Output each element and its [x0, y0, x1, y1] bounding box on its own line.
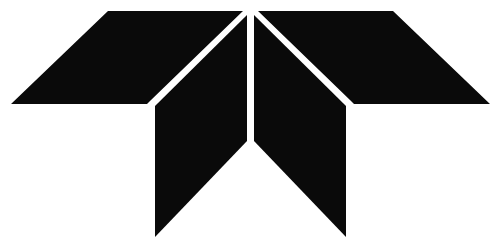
logo-canvas	[0, 0, 501, 251]
teledyne-logo	[0, 0, 501, 251]
logo-background	[0, 0, 501, 251]
